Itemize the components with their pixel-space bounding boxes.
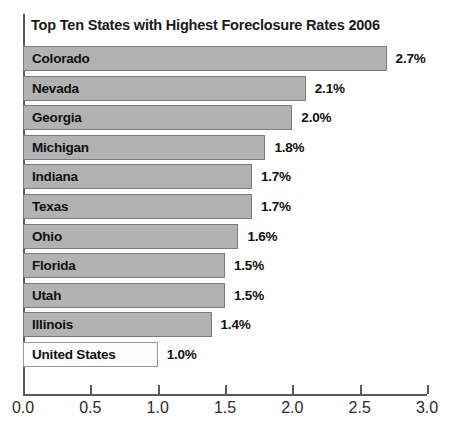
bar-category-label: Michigan <box>24 140 89 155</box>
bar-row: Colorado2.7% <box>23 46 457 71</box>
chart-title: Top Ten States with Highest Foreclosure … <box>31 17 380 33</box>
x-axis-tick <box>292 385 294 394</box>
bar-row: Georgia2.0% <box>23 105 457 130</box>
bar-row: United States1.0% <box>23 342 457 367</box>
x-axis-tick <box>225 385 227 394</box>
bar-row: Michigan1.8% <box>23 135 457 160</box>
bar-category-label: Indiana <box>24 169 78 184</box>
bar-value-label: 1.7% <box>261 164 291 189</box>
bar-value-label: 1.0% <box>167 342 197 367</box>
bar-value-label: 2.7% <box>396 46 426 71</box>
bar-category-label: Illinois <box>24 317 73 332</box>
bar-category-label: Texas <box>24 199 68 214</box>
x-axis-tick-label: 0.0 <box>12 399 34 417</box>
bar-value-label: 1.7% <box>261 194 291 219</box>
bar-row: Florida1.5% <box>23 253 457 278</box>
bar-category-label: United States <box>24 347 116 362</box>
x-axis-tick <box>90 385 92 394</box>
bar-category-label: Utah <box>24 288 61 303</box>
x-axis-tick-label: 1.0 <box>147 399 169 417</box>
bar-category-label: Nevada <box>24 81 79 96</box>
foreclosure-rates-bar-chart: Top Ten States with Highest Foreclosure … <box>0 0 457 448</box>
x-axis-tick-label: 2.5 <box>349 399 371 417</box>
bar-category-label: Florida <box>24 258 76 273</box>
bar-row: Texas1.7% <box>23 194 457 219</box>
bar-row: Utah1.5% <box>23 283 457 308</box>
bar-category-label: Georgia <box>24 110 82 125</box>
x-axis-line <box>23 394 427 396</box>
bar-united-states: United States <box>23 342 158 367</box>
bar-row: Indiana1.7% <box>23 164 457 189</box>
bar-utah: Utah <box>23 283 225 308</box>
x-axis-tick <box>158 385 160 394</box>
bar-nevada: Nevada <box>23 76 306 101</box>
bar-row: Illinois1.4% <box>23 312 457 337</box>
bar-ohio: Ohio <box>23 224 238 249</box>
x-axis-tick <box>427 385 429 394</box>
bar-value-label: 1.4% <box>221 312 251 337</box>
x-axis-tick-label: 1.5 <box>214 399 236 417</box>
bar-value-label: 1.5% <box>234 283 264 308</box>
bar-texas: Texas <box>23 194 252 219</box>
x-axis-tick-label: 3.0 <box>416 399 438 417</box>
bar-value-label: 1.8% <box>274 135 304 160</box>
bar-michigan: Michigan <box>23 135 265 160</box>
x-axis-tick <box>360 385 362 394</box>
bar-value-label: 1.5% <box>234 253 264 278</box>
plot-area: Colorado2.7%Nevada2.1%Georgia2.0%Michiga… <box>23 46 457 394</box>
bar-category-label: Colorado <box>24 51 90 66</box>
bar-indiana: Indiana <box>23 164 252 189</box>
bar-georgia: Georgia <box>23 105 292 130</box>
bar-row: Ohio1.6% <box>23 224 457 249</box>
x-axis-tick-label: 0.5 <box>79 399 101 417</box>
x-axis-tick-label: 2.0 <box>281 399 303 417</box>
bar-category-label: Ohio <box>24 229 62 244</box>
bar-illinois: Illinois <box>23 312 212 337</box>
bar-value-label: 1.6% <box>247 224 277 249</box>
bar-value-label: 2.1% <box>315 76 345 101</box>
x-axis-tick <box>23 385 25 394</box>
bar-colorado: Colorado <box>23 46 387 71</box>
bar-value-label: 2.0% <box>301 105 331 130</box>
bar-florida: Florida <box>23 253 225 278</box>
bar-row: Nevada2.1% <box>23 76 457 101</box>
